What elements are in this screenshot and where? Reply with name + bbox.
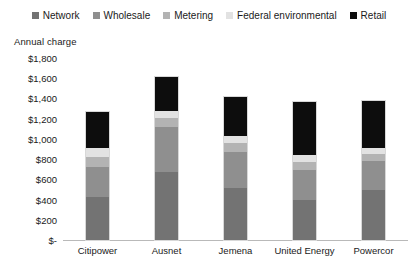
plot-area: CitipowerAusnetJemenaUnited EnergyPowerc…	[63, 0, 408, 275]
y-axis-tick-label: $800	[36, 154, 57, 165]
x-axis-category-label: Ausnet	[132, 245, 201, 256]
y-axis: $-$200$400$600$800$1,000$1,200$1,400$1,6…	[0, 0, 57, 275]
bar-segment[interactable]	[224, 188, 247, 240]
y-axis-tick-label: $600	[36, 174, 57, 185]
bar-segment[interactable]	[155, 118, 178, 127]
bar-segment[interactable]	[86, 167, 109, 196]
bar-segment[interactable]	[293, 162, 316, 170]
bar-group: Powercor	[339, 0, 408, 275]
bar-group: Ausnet	[132, 0, 201, 275]
bar-group: Jemena	[201, 0, 270, 275]
y-axis-tick-label: $400	[36, 194, 57, 205]
x-axis-category-label: Jemena	[201, 245, 270, 256]
bar-segment[interactable]	[155, 77, 178, 112]
bar-segment[interactable]	[86, 157, 109, 167]
stacked-bar[interactable]	[362, 101, 385, 240]
bar-segment[interactable]	[224, 143, 247, 152]
x-axis-category-label: United Energy	[270, 245, 339, 256]
y-axis-tick-label: $1,200	[28, 113, 57, 124]
y-axis-tick-label: $1,800	[28, 53, 57, 64]
bar-segment[interactable]	[362, 161, 385, 191]
y-axis-tick-label: $1,600	[28, 73, 57, 84]
y-axis-tick-label: $-	[49, 235, 57, 246]
bar-segment[interactable]	[86, 112, 109, 149]
stacked-bar[interactable]	[224, 97, 247, 240]
y-axis-tick-label: $1,400	[28, 93, 57, 104]
x-axis-category-label: Citipower	[63, 245, 132, 256]
y-axis-tick-label: $1,000	[28, 133, 57, 144]
bar-segment[interactable]	[86, 148, 109, 157]
bar-segment[interactable]	[362, 190, 385, 240]
bar-segment[interactable]	[224, 152, 247, 189]
stacked-bar-chart: NetworkWholesaleMeteringFederal environm…	[0, 0, 418, 275]
bar-segment[interactable]	[293, 170, 316, 200]
bar-segment[interactable]	[362, 154, 385, 161]
bar-segment[interactable]	[155, 111, 178, 118]
x-axis-category-label: Powercor	[339, 245, 408, 256]
bar-segment[interactable]	[224, 97, 247, 136]
bar-segment[interactable]	[293, 102, 316, 156]
bar-group: Citipower	[63, 0, 132, 275]
stacked-bar[interactable]	[293, 102, 316, 240]
stacked-bar[interactable]	[86, 112, 109, 240]
bar-segment[interactable]	[155, 127, 178, 172]
bar-segment[interactable]	[155, 172, 178, 240]
bar-segment[interactable]	[293, 155, 316, 162]
y-axis-tick-label: $200	[36, 214, 57, 225]
bar-segment[interactable]	[224, 136, 247, 143]
bar-group: United Energy	[270, 0, 339, 275]
bar-segment[interactable]	[293, 200, 316, 240]
bar-segment[interactable]	[86, 197, 109, 240]
stacked-bar[interactable]	[155, 77, 178, 240]
bar-segment[interactable]	[362, 101, 385, 148]
